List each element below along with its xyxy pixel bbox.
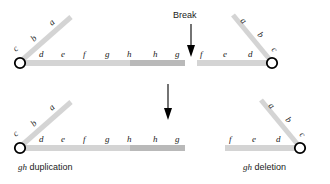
arm-letter: d: [276, 134, 281, 144]
arm-letter: g: [105, 49, 110, 59]
centromere: [295, 143, 305, 153]
arm-letter: c: [298, 130, 308, 140]
duplication-product: c b a d e f g h h g gh duplication: [10, 102, 185, 172]
arm-letter: d: [39, 49, 44, 59]
arm-letter: g: [175, 134, 180, 144]
arm-letter: c: [270, 45, 280, 55]
arm-letter: h: [127, 134, 132, 144]
arm-letter: h: [127, 49, 132, 59]
arm-letter: e: [252, 134, 256, 144]
arm-letter: f: [83, 134, 87, 144]
arm-letter: a: [46, 17, 57, 28]
centromere: [15, 58, 25, 68]
arm-letter: a: [46, 102, 57, 113]
centromere: [267, 58, 277, 68]
down-arrow-icon: [164, 108, 172, 120]
down-arrow-icon: [187, 45, 195, 57]
arm-letter: g: [105, 134, 110, 144]
deletion-caption-text: deletion: [252, 162, 286, 172]
transition-arrow: [164, 84, 172, 120]
arm-letter: e: [223, 49, 227, 59]
arm-letter: d: [248, 49, 253, 59]
centromere: [15, 143, 25, 153]
arm-letter: e: [61, 49, 65, 59]
deletion-caption: gh deletion: [243, 162, 286, 172]
duplication-caption-text: duplication: [27, 162, 73, 172]
arm-letter: f: [200, 49, 204, 59]
arm-letter: f: [229, 134, 233, 144]
duplication-caption: gh duplication: [18, 162, 73, 172]
deletion-product: a b c f e d gh deletion: [225, 100, 308, 172]
arm-letter: e: [61, 134, 65, 144]
arm-letter: d: [39, 134, 44, 144]
arm-letter: b: [284, 115, 295, 125]
arm-letter: b: [28, 118, 39, 129]
arm-letter: b: [28, 33, 39, 44]
arm-letter: h: [153, 134, 158, 144]
arm-letter: h: [153, 49, 158, 59]
arm-letter: f: [83, 49, 87, 59]
arm-letter: g: [175, 49, 180, 59]
arm-letter: b: [256, 30, 267, 40]
arm-letter: c: [10, 43, 20, 53]
top-left-chromosome: c b a d e f g h h g: [10, 17, 185, 68]
break-label: Break: [173, 10, 197, 20]
top-right-chromosome: a b c f e d: [197, 15, 280, 68]
diagram-canvas: c b a d e f g h h g Break a b c f e d: [0, 0, 330, 184]
arm-letter: c: [10, 128, 20, 138]
